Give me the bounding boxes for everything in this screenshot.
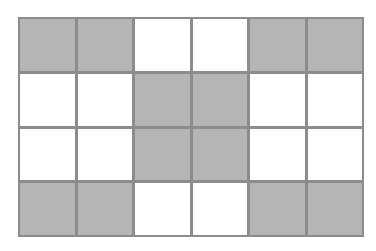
grid-cell-empty bbox=[193, 183, 248, 235]
grid-cell-shaded bbox=[20, 183, 75, 235]
grid-cell-shaded bbox=[20, 19, 75, 71]
grid-cell-empty bbox=[135, 183, 190, 235]
grid-cell-shaded bbox=[250, 183, 305, 235]
grid-cell-shaded bbox=[250, 19, 305, 71]
grid-cell-empty bbox=[308, 74, 363, 126]
grid-cell-shaded bbox=[193, 74, 248, 126]
grid-cell-empty bbox=[250, 74, 305, 126]
grid-cell-empty bbox=[250, 129, 305, 181]
grid-cell-shaded bbox=[135, 74, 190, 126]
grid-cell-empty bbox=[20, 129, 75, 181]
grid-cell-shaded bbox=[135, 129, 190, 181]
grid-cell-shaded bbox=[78, 19, 133, 71]
grid-cell-shaded bbox=[78, 183, 133, 235]
grid-cell-empty bbox=[78, 129, 133, 181]
grid-cell-shaded bbox=[193, 129, 248, 181]
grid-cell-shaded bbox=[308, 183, 363, 235]
grid-cell-empty bbox=[308, 129, 363, 181]
shaded-grid-diagram bbox=[18, 17, 364, 237]
grid-cell-empty bbox=[78, 74, 133, 126]
grid-cell-shaded bbox=[308, 19, 363, 71]
grid-cell-empty bbox=[193, 19, 248, 71]
grid-cell-empty bbox=[20, 74, 75, 126]
grid-cell-empty bbox=[135, 19, 190, 71]
